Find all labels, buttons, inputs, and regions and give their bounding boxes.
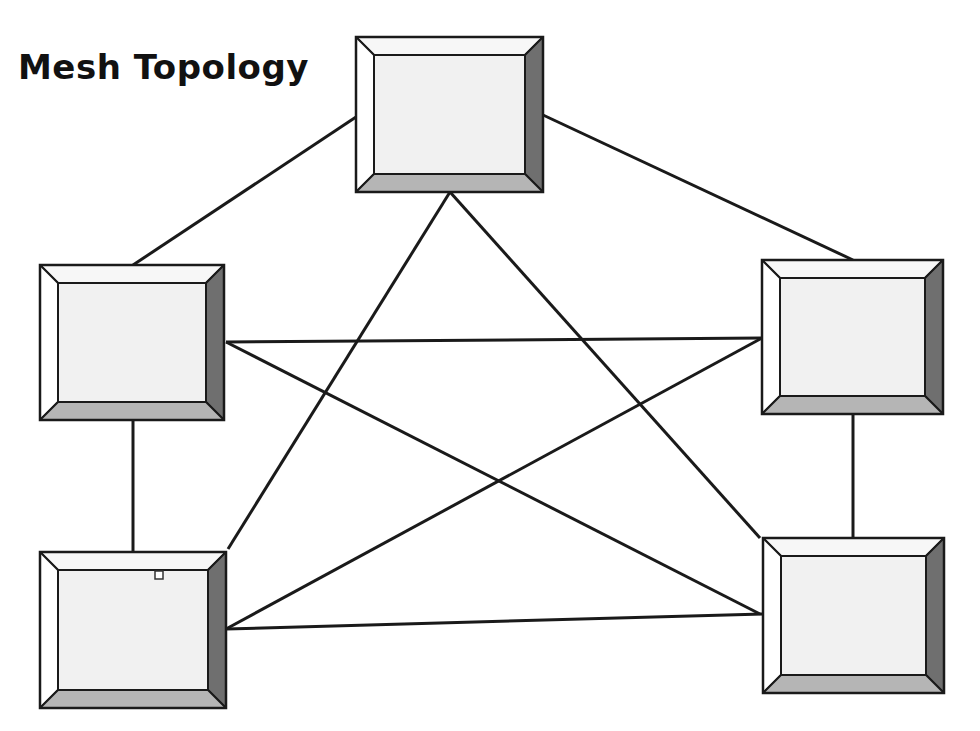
bevel-right [925, 260, 943, 414]
bevel-left [356, 37, 374, 192]
bevel-bottom [40, 402, 224, 420]
bevel-left [762, 260, 780, 414]
bevel-top [40, 552, 226, 570]
link-line [228, 192, 450, 549]
bevel-right [926, 538, 944, 693]
link-line [226, 614, 763, 629]
node-right-upper[interactable] [762, 260, 943, 414]
node-face [780, 278, 925, 396]
node-top[interactable] [356, 37, 543, 192]
bevel-bottom [763, 675, 944, 693]
bevel-bottom [40, 690, 226, 708]
link-line [226, 338, 762, 342]
node-left-upper[interactable] [40, 265, 224, 420]
bevel-top [356, 37, 543, 55]
selection-handle[interactable] [155, 571, 163, 579]
bevel-top [763, 538, 944, 556]
node-face [374, 55, 525, 174]
bevel-right [206, 265, 224, 420]
bevel-right [525, 37, 543, 192]
link-line [133, 117, 356, 265]
node-left-lower[interactable] [40, 552, 226, 708]
resize-handle-icon[interactable] [155, 571, 163, 579]
bevel-bottom [762, 396, 943, 414]
bevel-top [40, 265, 224, 283]
nodes-group [40, 37, 944, 708]
bevel-right [208, 552, 226, 708]
node-face [58, 570, 208, 690]
bevel-top [762, 260, 943, 278]
link-line [543, 115, 853, 260]
node-face [58, 283, 206, 402]
bevel-left [40, 265, 58, 420]
mesh-diagram [0, 0, 980, 731]
bevel-left [40, 552, 58, 708]
bevel-left [763, 538, 781, 693]
bevel-bottom [356, 174, 543, 192]
node-right-lower[interactable] [763, 538, 944, 693]
node-face [781, 556, 926, 675]
